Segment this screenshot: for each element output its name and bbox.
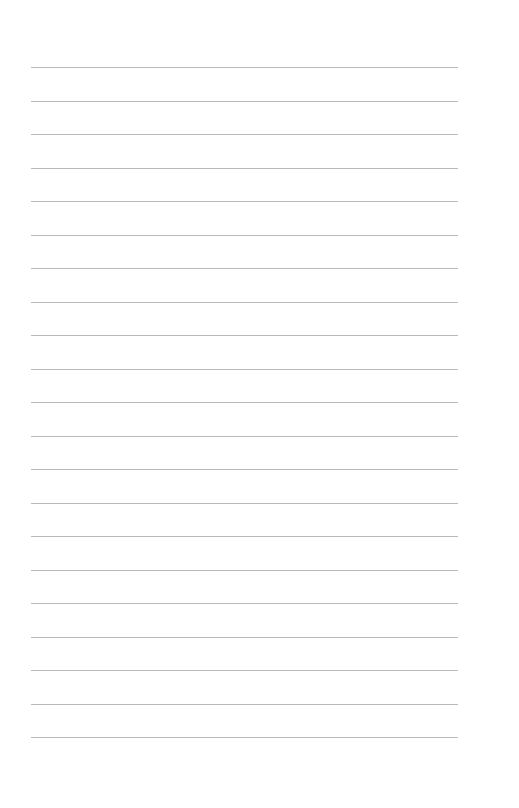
ruled-line — [31, 168, 458, 169]
ruled-line — [31, 101, 458, 102]
ruled-line — [31, 570, 458, 571]
ruled-line — [31, 235, 458, 236]
ruled-line — [31, 704, 458, 705]
ruled-line — [31, 603, 458, 604]
lined-paper-page — [0, 0, 519, 808]
ruled-line — [31, 503, 458, 504]
ruled-line — [31, 670, 458, 671]
ruled-line — [31, 402, 458, 403]
ruled-line — [31, 737, 458, 738]
ruled-line — [31, 302, 458, 303]
ruled-line — [31, 469, 458, 470]
ruled-line — [31, 536, 458, 537]
ruled-line — [31, 201, 458, 202]
ruled-line — [31, 335, 458, 336]
ruled-line — [31, 637, 458, 638]
ruled-line — [31, 268, 458, 269]
ruled-line — [31, 369, 458, 370]
ruled-line — [31, 134, 458, 135]
ruled-line — [31, 67, 458, 68]
ruled-line — [31, 436, 458, 437]
